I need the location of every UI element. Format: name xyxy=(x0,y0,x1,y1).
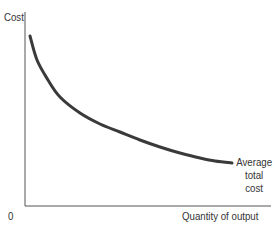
curve-label: Average total cost xyxy=(233,156,275,195)
curve-label-line-2: total xyxy=(233,169,275,182)
curve-label-line-3: cost xyxy=(233,182,275,195)
x-axis-label: Quantity of output xyxy=(182,210,258,223)
origin-label: 0 xyxy=(8,210,13,223)
y-axis-label: Cost xyxy=(4,11,24,24)
average-total-cost-curve xyxy=(30,36,232,163)
curve-label-line-1: Average xyxy=(233,156,275,169)
average-total-cost-chart: Cost 0 Quantity of output Average total … xyxy=(0,0,277,234)
chart-canvas xyxy=(0,0,277,234)
